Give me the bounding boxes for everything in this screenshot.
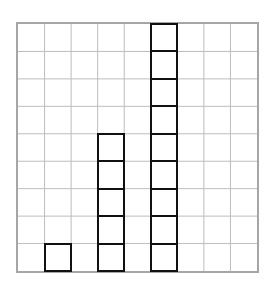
unit-square bbox=[150, 50, 179, 79]
unit-square bbox=[97, 243, 126, 272]
unit-square bbox=[150, 105, 179, 134]
square-grid bbox=[16, 22, 259, 273]
unit-square bbox=[150, 243, 179, 272]
unit-square bbox=[97, 215, 126, 244]
unit-square bbox=[44, 243, 73, 272]
unit-square bbox=[150, 188, 179, 217]
unit-square bbox=[150, 215, 179, 244]
unit-square bbox=[150, 160, 179, 189]
unit-square bbox=[97, 133, 126, 162]
unit-square bbox=[150, 23, 179, 52]
unit-square bbox=[150, 133, 179, 162]
unit-square bbox=[97, 160, 126, 189]
grid-lines bbox=[18, 24, 257, 271]
unit-square bbox=[97, 188, 126, 217]
unit-square bbox=[150, 78, 179, 107]
